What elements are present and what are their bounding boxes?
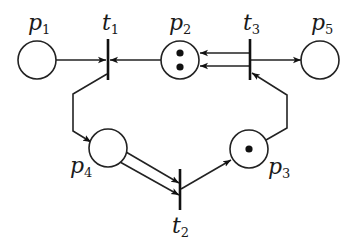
place-p4 xyxy=(89,129,127,167)
place-p2 xyxy=(161,41,199,79)
label-p3: p3 xyxy=(268,154,290,181)
label-p4: p4 xyxy=(70,153,92,180)
label-t2: t2 xyxy=(172,213,189,240)
place-p5 xyxy=(301,41,339,79)
place-p1 xyxy=(18,41,56,79)
arc-p3-t3 xyxy=(252,73,287,140)
label-p1: p1 xyxy=(28,10,50,37)
label-p2: p2 xyxy=(169,10,191,37)
label-p5: p5 xyxy=(311,10,333,37)
petri-net-diagram: p1 t1 p2 t3 p5 p4 p3 t2 xyxy=(0,0,360,248)
arc-t2-p3 xyxy=(181,160,231,189)
label-t3: t3 xyxy=(243,10,260,37)
token-icon xyxy=(176,49,183,56)
label-t1: t1 xyxy=(102,10,119,37)
token-icon xyxy=(245,145,252,152)
arc-p4-t2-a xyxy=(126,152,179,183)
token-icon xyxy=(176,63,183,70)
